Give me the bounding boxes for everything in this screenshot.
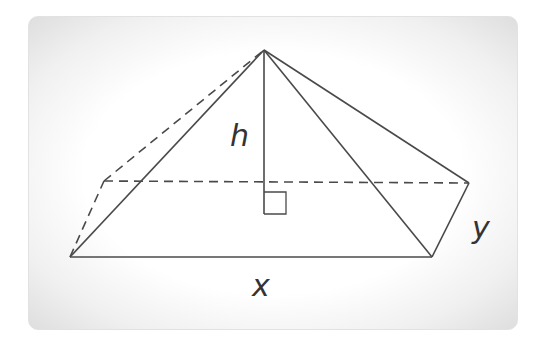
lateral-edge-front-right <box>264 50 432 257</box>
pyramid-diagram: h x y <box>0 0 544 348</box>
base-edge-right <box>432 183 469 257</box>
label-height: h <box>230 118 249 153</box>
lateral-edge-back-right <box>264 50 469 183</box>
right-angle-marker <box>264 192 286 214</box>
lateral-edge-front-left <box>70 50 264 257</box>
hidden-edge-apex-back-left <box>104 50 264 181</box>
label-length: x <box>251 268 270 303</box>
hidden-edge-back <box>104 181 469 183</box>
label-width: y <box>471 210 491 245</box>
hidden-edge-left <box>70 181 104 257</box>
